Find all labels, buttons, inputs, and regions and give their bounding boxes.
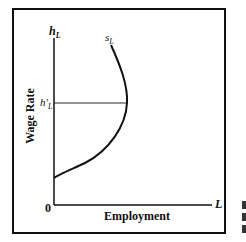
origin-label: 0 (45, 201, 51, 216)
labor-supply-curve (54, 45, 127, 178)
cropped-text-fragment (242, 213, 246, 221)
x-axis-label: Employment (104, 209, 170, 224)
cropped-text-fragment (242, 225, 246, 233)
reference-wage-label: h′L (40, 96, 52, 111)
x-axis-symbol: L (215, 197, 222, 212)
y-axis-label: Wage Rate (23, 88, 38, 144)
cropped-text-fragment (242, 201, 246, 209)
y-axis-symbol: hL (49, 24, 61, 40)
curve-label: sL (105, 31, 114, 46)
